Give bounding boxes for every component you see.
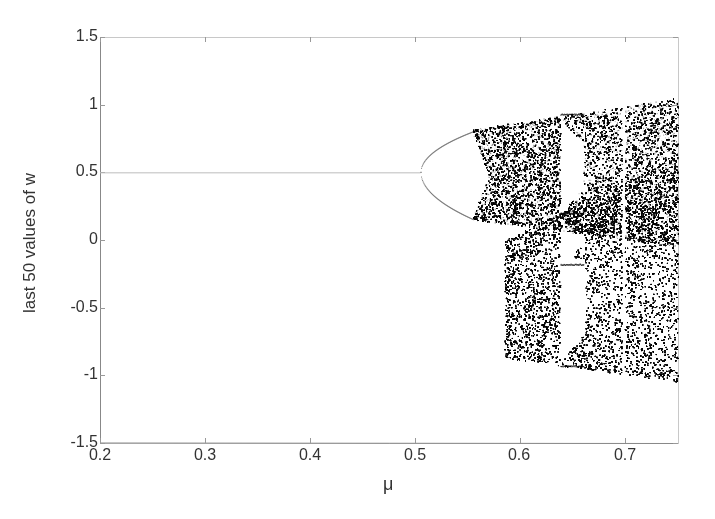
y-axis-label: last 50 values of w [20, 168, 40, 318]
ytick-neg0.5: -0.5 [38, 298, 98, 316]
ytick-0: 0 [38, 230, 98, 248]
ytick-1: 1 [38, 95, 98, 113]
xtick-0.3: 0.3 [180, 446, 230, 464]
xtick-0.7: 0.7 [600, 446, 650, 464]
xtick-0.4: 0.4 [285, 446, 335, 464]
xtick-0.6: 0.6 [494, 446, 544, 464]
xtick-0.2: 0.2 [75, 446, 125, 464]
ytick-1.5: 1.5 [38, 27, 98, 45]
ytick-0.5: 0.5 [38, 162, 98, 180]
ytick-neg1: -1 [38, 365, 98, 383]
bifurcation-plot [0, 0, 715, 519]
xtick-0.5: 0.5 [390, 446, 440, 464]
x-axis-label: μ [383, 474, 393, 495]
